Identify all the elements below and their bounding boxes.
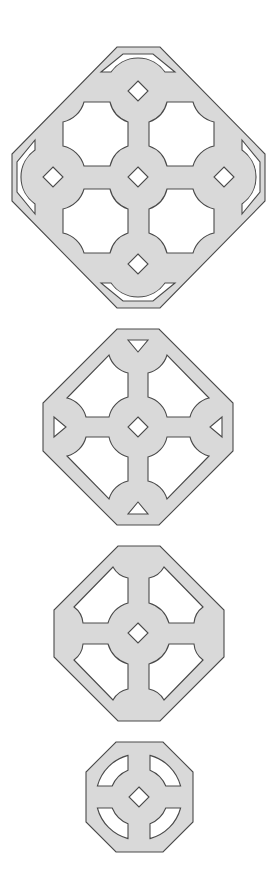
figure-3: Octagon with four cusped windows and one… [54,546,224,721]
diagram-canvas: Large diamond-oriented octagon with four… [0,0,275,887]
figure-1: Large diamond-oriented octagon with four… [12,47,265,308]
figure-4: Small octagon with four curved ring slot… [86,742,193,852]
figure-2: Octagon with four cusped windows, one ce… [43,329,233,525]
